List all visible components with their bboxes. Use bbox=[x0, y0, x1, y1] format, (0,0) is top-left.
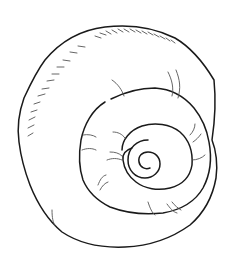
shell-rib-hatching bbox=[28, 29, 205, 226]
spiral-shell-drawing bbox=[0, 0, 234, 269]
shell-outer-whorl bbox=[18, 26, 217, 247]
shell-illustration bbox=[0, 0, 234, 269]
shell-center-spiral bbox=[128, 140, 160, 178]
